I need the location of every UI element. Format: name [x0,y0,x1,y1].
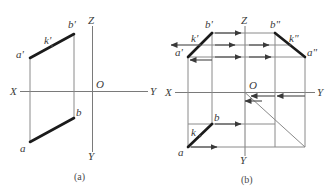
point-label-b-b: b [214,111,220,123]
point-label-b-prime-b: b' [205,18,214,30]
axis-label-y-down-b: Y [240,154,248,166]
diagram-a-canvas: X Y Z Y O a' b' k' a b (a) [0,0,163,194]
figure-root: X Y Z Y O a' b' k' a b (a) [0,0,326,194]
caption-b: (b) [241,174,253,186]
axis-label-x-a: X [9,85,18,97]
projection-diagram-a: X Y Z Y O a' b' k' a b (a) [0,0,163,194]
axis-label-z-b: Z [241,14,248,26]
point-label-k-double-prime-b: k" [289,32,299,44]
point-label-b-double-prime-b: b" [270,18,281,30]
point-label-a-a: a [20,142,26,154]
axis-label-origin-b: O [249,79,257,91]
caption-a: (a) [74,171,85,183]
point-label-k-b: k [191,126,197,138]
diagram-b-canvas: X Y Z Y O a' b' k' b" a" k" a b k (b) [163,0,326,194]
segment-a-b [30,118,74,142]
point-label-k-prime-b: k' [191,32,199,44]
axis-label-z-a: Z [88,14,95,26]
axis-label-y-down-a: Y [88,150,96,162]
point-marker-k-double-prime-b [289,44,292,47]
axis-label-y-right-b: Y [317,86,325,98]
point-label-b-prime-a: b' [68,18,77,30]
point-marker-k-b [199,135,202,138]
axis-label-x-b: X [164,86,173,98]
point-label-b-a: b [76,106,82,118]
point-label-a-double-prime-b: a" [307,46,318,58]
point-label-k-prime-a: k' [44,34,52,46]
point-marker-k-prime-b [199,44,202,47]
axis-label-y-right-a: Y [150,85,158,97]
axis-label-origin-a: O [96,78,104,90]
point-label-a-prime-a: a' [16,48,25,60]
point-label-a-b: a [178,146,184,158]
point-label-a-prime-b: a' [175,46,184,58]
projection-diagram-b: X Y Z Y O a' b' k' b" a" k" a b k (b) [163,0,326,194]
